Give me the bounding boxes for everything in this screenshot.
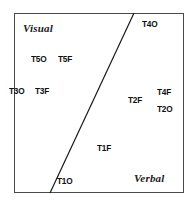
point-label-t2f: T2F (128, 95, 142, 105)
visual-verbal-scatter-figure: Visual Verbal T4O T5O T5F T3O T3F T4F T2… (0, 0, 195, 207)
plot-frame-border (14, 13, 184, 193)
region-label-verbal: Verbal (134, 172, 165, 184)
point-label-t5o: T5O (31, 54, 47, 64)
point-label-t4o: T4O (142, 19, 158, 29)
point-label-t3o: T3O (9, 86, 25, 96)
region-label-visual: Visual (23, 22, 53, 34)
point-label-t4f: T4F (157, 87, 171, 97)
point-label-t5f: T5F (58, 54, 72, 64)
point-label-t2o: T2O (157, 104, 173, 114)
point-label-t1o: T1O (57, 176, 73, 186)
point-label-t3f: T3F (35, 86, 49, 96)
point-label-t1f: T1F (97, 143, 111, 153)
